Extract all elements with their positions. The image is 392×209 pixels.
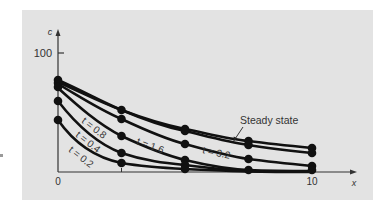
point — [54, 116, 63, 125]
y-axis-arrow-icon — [56, 29, 61, 36]
point — [117, 149, 126, 158]
y-tick-label-100: 100 — [34, 47, 52, 59]
point — [181, 165, 190, 174]
point — [117, 115, 126, 124]
point — [117, 159, 126, 168]
point — [244, 155, 253, 164]
x-tick-label-10: 10 — [306, 176, 318, 187]
point — [117, 132, 126, 141]
point — [54, 83, 63, 92]
x-axis-arrow-icon — [350, 170, 357, 175]
label-t-1.6: t = 1.6 — [135, 136, 166, 156]
point — [181, 127, 190, 136]
x-axis-label: x — [351, 178, 357, 188]
x-tick-label-0: 0 — [55, 176, 61, 187]
point — [244, 141, 253, 150]
label-t-3.2: t = 3.2 — [202, 144, 232, 161]
label-steady-state: Steady state — [240, 114, 299, 126]
concentration-profile-chart: c 100 0 10 x — [0, 0, 392, 209]
point — [54, 97, 63, 106]
steady-state-pointer — [235, 127, 243, 139]
y-axis-label: c — [48, 27, 53, 37]
point — [308, 149, 317, 158]
point — [181, 140, 190, 149]
point — [244, 166, 253, 175]
point — [117, 106, 126, 115]
point — [308, 166, 317, 175]
